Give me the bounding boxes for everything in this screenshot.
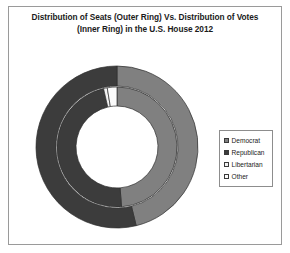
- legend-swatch-democrat: [224, 138, 229, 143]
- legend-item-libertarian[interactable]: Libertarian: [224, 159, 269, 170]
- legend-swatch-other: [224, 174, 229, 179]
- legend-item-other[interactable]: Other: [224, 171, 269, 182]
- chart-title: Distribution of Seats (Outer Ring) Vs. D…: [14, 12, 276, 35]
- chart-figure: Distribution of Seats (Outer Ring) Vs. D…: [0, 0, 290, 253]
- inner-ring-votes: [57, 87, 177, 207]
- chart-title-line-1: Distribution of Seats (Outer Ring) Vs. D…: [14, 12, 276, 24]
- legend-item-democrat[interactable]: Democrat: [224, 135, 269, 146]
- legend-label-republican: Republican: [232, 149, 265, 157]
- legend-label-other: Other: [232, 173, 249, 181]
- legend-swatch-republican: [224, 150, 229, 155]
- legend-item-republican[interactable]: Republican: [224, 147, 269, 158]
- legend-label-libertarian: Libertarian: [232, 161, 263, 169]
- doughnut-svg: [35, 64, 199, 230]
- chart-title-line-2: (Inner Ring) in the U.S. House 2012: [14, 24, 276, 36]
- chart-legend: Democrat Republican Libertarian Other: [219, 130, 273, 187]
- legend-swatch-libertarian: [224, 162, 229, 167]
- legend-label-democrat: Democrat: [232, 137, 261, 145]
- doughnut-chart: [35, 64, 199, 230]
